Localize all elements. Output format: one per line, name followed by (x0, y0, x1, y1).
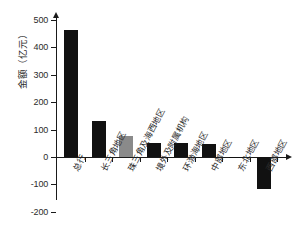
bar (92, 121, 106, 157)
y-axis-tick (51, 212, 56, 213)
y-axis-tick-label: 200 (34, 97, 48, 107)
bar-chart: 金额（亿元） 5004003002001000-100-200 总行长三角地区珠… (0, 0, 299, 240)
y-axis-tick (51, 75, 56, 76)
y-axis-tick (51, 102, 56, 103)
y-axis-tick-label: 100 (34, 125, 48, 135)
y-axis-tick (51, 47, 56, 48)
y-axis-tick-label: -100 (31, 179, 48, 189)
y-axis-tick (51, 20, 56, 21)
y-axis-tick-label: 500 (34, 15, 48, 25)
x-axis-arrow-icon (286, 154, 292, 160)
y-axis-tick-label: 0 (43, 152, 48, 162)
x-axis-category-label: 西部地区 (262, 136, 289, 172)
bar (64, 30, 78, 157)
y-axis-title: 金额（亿元） (15, 16, 29, 102)
y-axis-tick-label: -200 (31, 207, 48, 217)
y-axis-tick (51, 130, 56, 131)
y-axis-tick-label: 400 (34, 42, 48, 52)
y-axis-tick-label: 300 (34, 70, 48, 80)
y-axis-arrow-icon (53, 12, 59, 18)
y-axis-tick (51, 184, 56, 185)
y-axis-tick (51, 157, 56, 158)
y-axis-line (56, 16, 57, 200)
